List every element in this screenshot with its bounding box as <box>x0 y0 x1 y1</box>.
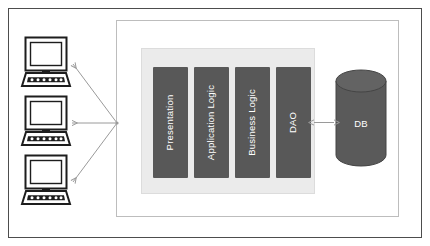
terminal-screen-2 <box>31 102 62 125</box>
terminal-screen-1 <box>31 43 62 66</box>
diagram-canvas: Presentation Application Logic Business … <box>0 0 430 246</box>
layer-application-logic[interactable]: Application Logic <box>194 67 229 178</box>
database-label: DB <box>354 118 368 129</box>
terminal-keys-2 <box>27 136 65 141</box>
layer-presentation[interactable]: Presentation <box>153 67 188 178</box>
layer-dao-label: DAO <box>287 112 298 133</box>
layer-business-logic[interactable]: Business Logic <box>235 67 270 178</box>
client-terminal-1[interactable] <box>22 38 70 87</box>
database-top <box>336 70 386 92</box>
layer-dao[interactable]: DAO <box>276 67 311 178</box>
layer-presentation-label: Presentation <box>164 95 175 151</box>
terminal-keys-3 <box>27 195 65 200</box>
architecture-diagram: Presentation Application Logic Business … <box>0 0 430 246</box>
client-fan-hub <box>115 121 118 124</box>
terminal-screen-3 <box>31 161 62 184</box>
database-cylinder[interactable]: DB <box>336 70 386 166</box>
client-terminal-2[interactable] <box>22 97 70 146</box>
terminal-keys-1 <box>27 77 65 82</box>
layer-application-logic-label: Application Logic <box>205 85 216 160</box>
client-terminal-3[interactable] <box>22 156 70 205</box>
layer-business-logic-label: Business Logic <box>246 89 257 156</box>
